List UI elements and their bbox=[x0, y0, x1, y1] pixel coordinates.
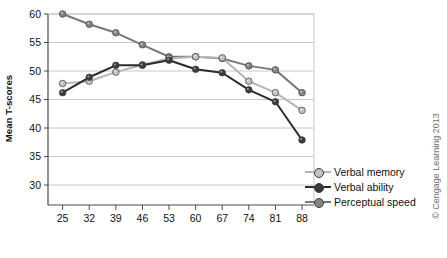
data-point-2-8 bbox=[272, 67, 279, 74]
data-point-1-6 bbox=[219, 69, 226, 76]
data-point-highlight-2-3 bbox=[141, 43, 143, 45]
data-point-0-2 bbox=[113, 69, 120, 76]
x-tick-label-0: 25 bbox=[57, 212, 69, 224]
data-point-highlight-0-0 bbox=[61, 82, 63, 84]
data-point-1-4 bbox=[166, 57, 173, 64]
data-point-2-3 bbox=[139, 41, 146, 48]
data-point-1-8 bbox=[272, 99, 279, 106]
legend-marker-icon-0 bbox=[305, 166, 331, 178]
y-tick-label-4: 50 bbox=[29, 65, 41, 77]
data-point-0-7 bbox=[246, 78, 253, 85]
legend-label-0: Verbal memory bbox=[331, 166, 405, 178]
y-tick-label-0: 30 bbox=[29, 179, 41, 191]
legend-item-perceptual-speed[interactable]: Perceptual speed bbox=[305, 195, 427, 209]
y-tick-label-6: 60 bbox=[29, 8, 41, 20]
data-point-highlight-1-5 bbox=[194, 67, 196, 69]
data-point-highlight-2-7 bbox=[247, 64, 249, 66]
plot-area: 3035404550556025323946536067748188Age bbox=[18, 4, 330, 228]
legend-label-2: Perceptual speed bbox=[331, 196, 416, 208]
y-tick-label-2: 40 bbox=[29, 122, 41, 134]
x-tick-label-7: 74 bbox=[243, 212, 255, 224]
data-point-highlight-2-0 bbox=[61, 12, 63, 14]
x-tick-label-4: 53 bbox=[163, 212, 175, 224]
x-tick-label-9: 88 bbox=[296, 212, 308, 224]
data-point-1-5 bbox=[192, 66, 199, 73]
data-point-highlight-2-9 bbox=[300, 91, 302, 93]
data-point-highlight-0-8 bbox=[274, 91, 276, 93]
data-point-0-8 bbox=[272, 89, 279, 96]
copyright-text: © Cengage Learning 2013 bbox=[431, 113, 441, 219]
y-tick-label-5: 55 bbox=[29, 36, 41, 48]
data-point-highlight-1-8 bbox=[274, 100, 276, 102]
y-tick-label-3: 45 bbox=[29, 93, 41, 105]
data-point-highlight-0-7 bbox=[247, 79, 249, 81]
data-point-1-0 bbox=[59, 89, 66, 96]
data-point-2-1 bbox=[86, 21, 93, 28]
data-point-2-0 bbox=[59, 11, 66, 18]
series-line-2 bbox=[63, 14, 302, 93]
data-point-1-1 bbox=[86, 74, 93, 81]
data-point-0-0 bbox=[59, 80, 66, 87]
x-tick-label-3: 46 bbox=[137, 212, 149, 224]
line-chart-svg: 3035404550556025323946536067748188Age bbox=[18, 4, 330, 228]
data-point-0-9 bbox=[299, 107, 306, 114]
data-point-highlight-0-2 bbox=[114, 70, 116, 72]
legend-item-verbal-ability[interactable]: Verbal ability bbox=[305, 180, 427, 194]
y-tick-label-1: 35 bbox=[29, 150, 41, 162]
x-tick-label-2: 39 bbox=[110, 212, 122, 224]
y-axis-title: Mean T-scores bbox=[1, 56, 17, 160]
data-point-highlight-1-0 bbox=[61, 91, 63, 93]
data-point-highlight-2-8 bbox=[274, 68, 276, 70]
data-point-2-9 bbox=[299, 89, 306, 96]
data-point-highlight-2-2 bbox=[114, 31, 116, 33]
data-point-2-7 bbox=[246, 63, 253, 70]
data-point-2-2 bbox=[113, 30, 120, 37]
data-point-highlight-1-3 bbox=[141, 63, 143, 65]
data-point-1-3 bbox=[139, 62, 146, 69]
data-point-1-7 bbox=[246, 87, 253, 94]
data-point-1-9 bbox=[299, 137, 306, 144]
x-tick-label-6: 67 bbox=[216, 212, 228, 224]
data-point-highlight-1-4 bbox=[167, 58, 169, 60]
data-point-1-2 bbox=[113, 62, 120, 69]
x-axis-title: Age bbox=[172, 226, 190, 228]
chart-legend: Verbal memory Verbal ability Perceptual … bbox=[305, 165, 427, 210]
data-point-highlight-1-9 bbox=[300, 138, 302, 140]
data-point-highlight-1-6 bbox=[220, 71, 222, 73]
x-tick-label-1: 32 bbox=[83, 212, 95, 224]
x-tick-label-8: 81 bbox=[270, 212, 282, 224]
y-axis-title-text: Mean T-scores bbox=[4, 74, 15, 141]
data-point-highlight-2-1 bbox=[87, 22, 89, 24]
data-point-0-5 bbox=[192, 53, 199, 60]
legend-marker-icon-2 bbox=[305, 196, 331, 208]
data-point-highlight-0-5 bbox=[194, 55, 196, 57]
legend-marker-icon-1 bbox=[305, 181, 331, 193]
legend-label-1: Verbal ability bbox=[331, 181, 394, 193]
data-point-0-6 bbox=[219, 55, 226, 62]
x-tick-label-5: 60 bbox=[190, 212, 202, 224]
chart-figure: Mean T-scores 30354045505560253239465360… bbox=[0, 0, 447, 258]
data-point-highlight-0-6 bbox=[220, 56, 222, 58]
data-point-highlight-0-9 bbox=[300, 108, 302, 110]
copyright-credit: © Cengage Learning 2013 bbox=[427, 96, 445, 236]
data-point-highlight-1-1 bbox=[87, 75, 89, 77]
data-point-highlight-1-2 bbox=[114, 63, 116, 65]
data-point-highlight-1-7 bbox=[247, 88, 249, 90]
legend-item-verbal-memory[interactable]: Verbal memory bbox=[305, 165, 427, 179]
